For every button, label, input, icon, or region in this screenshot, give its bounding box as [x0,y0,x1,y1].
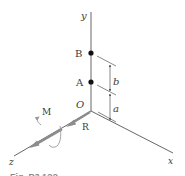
point-a-dot [88,79,93,84]
moment-m-label: M [42,107,51,117]
force-r-label: R [82,122,89,132]
y-axis: y [80,10,91,111]
dimension-a: a [110,94,119,120]
dimension-b-label: b [113,76,119,87]
point-b-label: B [75,48,82,59]
statics-diagram: y x z O B A b a R [0,0,185,176]
dimension-a-label: a [113,103,119,114]
origin-label: O [76,99,84,110]
z-axis-label: z [8,157,14,167]
moment-arrow-icon [37,117,41,125]
point-b-dot [88,50,93,55]
x-axis: x [91,111,173,166]
figure-caption: Fig. P3.1?? [10,172,58,176]
y-axis-label: y [80,10,87,21]
dimension-b: b [110,65,119,91]
point-a-label: A [75,77,84,88]
x-axis-label: x [168,156,173,166]
